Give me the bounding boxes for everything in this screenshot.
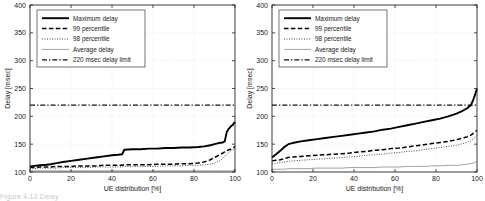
y-axis-tick-label: 300 [14,57,26,64]
y-axis-tick-label: 100 [14,169,26,176]
legend-label: 220 msec delay limit [73,56,131,64]
x-axis-tick-label: 40 [108,175,116,182]
legend-label: 98 percentile [315,35,352,43]
legend-label: Average delay [73,46,115,54]
legend-label: 220 msec delay limit [315,56,373,64]
x-axis-tick-label: 20 [67,175,75,182]
chart-panel-right: 100150200250300350400020406080100UE dist… [242,0,484,201]
legend-label: Average delay [315,46,357,54]
x-axis-tick-label: 60 [391,175,399,182]
y-axis-tick-label: 250 [14,85,26,92]
delay-distribution-chart-left: 100150200250300350400020406080100UE dist… [0,0,242,201]
y-axis-tick-label: 400 [256,2,268,9]
legend-right: Maximum delay99 percentile98 percentileA… [279,10,387,67]
legend-label: Maximum delay [315,15,361,23]
x-axis-tick-label: 80 [190,175,198,182]
y-axis-tick-label: 200 [14,113,26,120]
y-axis-tick-label: 350 [256,29,268,36]
x-axis-tick-label: 60 [149,175,157,182]
legend-label: 98 percentile [73,35,110,43]
chart-panel-left: 100150200250300350400020406080100UE dist… [0,0,242,201]
y-axis-tick-label: 250 [256,85,268,92]
y-axis-tick-label: 150 [256,141,268,148]
y-axis-tick-label: 150 [14,141,26,148]
y-axis-title: Delay [msec] [4,68,12,109]
x-axis-tick-label: 0 [28,175,32,182]
x-axis-tick-label: 100 [471,175,483,182]
figure-caption-partial: Figure 4.13 Delay [0,192,485,201]
x-axis-tick-label: 40 [350,175,358,182]
delay-distribution-chart-right: 100150200250300350400020406080100UE dist… [242,0,484,201]
y-axis-tick-label: 100 [256,169,268,176]
y-axis-tick-label: 350 [14,29,26,36]
legend-label: Maximum delay [73,15,119,23]
legend-label: 99 percentile [73,25,110,33]
y-axis-tick-label: 400 [14,2,26,9]
x-axis-tick-label: 80 [432,175,440,182]
legend-left: Maximum delay99 percentile98 percentileA… [37,10,145,67]
figure-root: 100150200250300350400020406080100UE dist… [0,0,485,201]
legend-label: 99 percentile [315,25,352,33]
y-axis-tick-label: 200 [256,113,268,120]
x-axis-tick-label: 100 [229,175,241,182]
x-axis-tick-label: 20 [309,175,317,182]
x-axis-tick-label: 0 [270,175,274,182]
y-axis-tick-label: 300 [256,57,268,64]
y-axis-title: Delay [msec] [246,68,254,109]
